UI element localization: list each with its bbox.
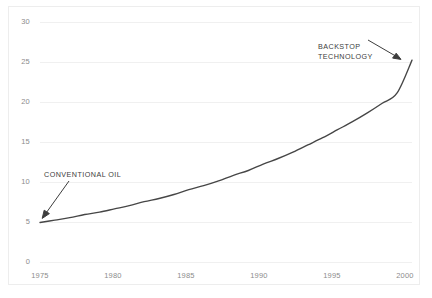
y-tick-5: 5 (8, 218, 30, 226)
x-tick-1995: 1995 (312, 272, 352, 280)
y-tick-10: 10 (8, 178, 30, 186)
y-tick-20: 20 (8, 98, 30, 106)
annotation-arrows (42, 40, 401, 218)
y-tick-15: 15 (8, 138, 30, 146)
y-tick-30: 30 (8, 18, 30, 26)
x-tick-1975: 1975 (20, 272, 60, 280)
annotation-backstop-technology: BACKSTOP TECHNOLOGY (318, 42, 373, 62)
x-tick-2000: 2000 (385, 272, 425, 280)
y-tick-25: 25 (8, 58, 30, 66)
x-tick-1980: 1980 (93, 272, 133, 280)
y-tick-0: 0 (8, 258, 30, 266)
data-series-line (40, 60, 412, 222)
conventional-oil-arrow (42, 181, 69, 218)
annotation-conventional-oil: CONVENTIONAL OIL (44, 170, 121, 180)
chart-container: 30 25 20 15 10 5 0 1975 1980 1985 1990 1… (0, 0, 432, 298)
x-tick-1990: 1990 (239, 272, 279, 280)
x-tick-1985: 1985 (166, 272, 206, 280)
backstop-arrow (368, 40, 401, 59)
